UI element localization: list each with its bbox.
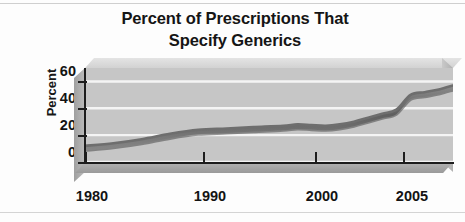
gridlines <box>85 81 453 162</box>
x-tick-mark-2005 <box>403 152 405 164</box>
x-axis-tick-labels: 1980 1990 2000 2005 <box>0 188 465 212</box>
scan-artifact-line-bottom <box>0 212 465 213</box>
y-tick-label-20: 20 <box>42 118 76 133</box>
x-tick-mark-1980 <box>85 152 87 164</box>
x-tick-label-2005: 2005 <box>396 188 428 204</box>
y-tick-mark-60 <box>78 81 87 83</box>
y-tick-mark-40 <box>78 108 87 110</box>
x-tick-mark-2000 <box>315 152 317 164</box>
chart-title: Percent of Prescriptions That Specify Ge… <box>40 8 430 52</box>
x-tick-mark-1990 <box>203 152 205 164</box>
series-ribbon-group <box>85 85 453 150</box>
y-tick-label-60: 60 <box>42 64 76 79</box>
x-tick-label-1980: 1980 <box>76 188 108 204</box>
plot-3d-top-face <box>85 58 462 68</box>
data-series-ribbon <box>85 68 453 162</box>
y-tick-label-0: 0 <box>42 145 76 160</box>
x-tick-label-2000: 2000 <box>306 188 338 204</box>
chart-title-line-1: Percent of Prescriptions That <box>40 8 430 30</box>
chart-page: Percent of Prescriptions That Specify Ge… <box>0 0 465 222</box>
y-tick-mark-20 <box>78 135 87 137</box>
chart-title-line-2: Specify Generics <box>40 30 430 52</box>
x-tick-label-1990: 1990 <box>194 188 226 204</box>
plot-surface <box>85 68 453 162</box>
y-tick-label-40: 40 <box>42 91 76 106</box>
plot-area <box>74 58 453 180</box>
x-axis-line <box>84 162 454 164</box>
